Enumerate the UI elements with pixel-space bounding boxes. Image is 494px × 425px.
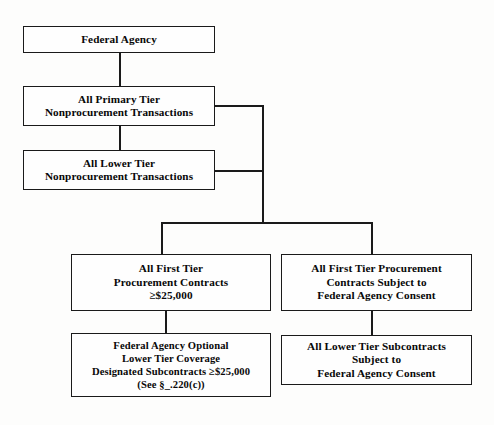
connector-drop-to-first-tier-right xyxy=(371,222,373,254)
connector-lower-stub-right xyxy=(215,170,263,172)
node-label-all-first-tier-procurement-consent: All First Tier Procurement Contracts Sub… xyxy=(307,262,446,302)
connector-right-column-connector xyxy=(371,311,373,335)
node-all-lower-tier-subcontracts-consent: All Lower Tier Subcontracts Subject to F… xyxy=(281,335,472,385)
node-federal-agency: Federal Agency xyxy=(23,26,215,53)
connector-primary-to-lower xyxy=(119,126,121,150)
node-all-first-tier-procurement-consent: All First Tier Procurement Contracts Sub… xyxy=(281,254,472,311)
connector-primary-stub-right xyxy=(215,105,263,107)
node-label-all-first-tier-procurement-contracts: All First Tier Procurement Contracts ≥$2… xyxy=(110,262,232,302)
connector-split-bar-horizontal xyxy=(161,222,372,224)
node-all-first-tier-procurement-contracts: All First Tier Procurement Contracts ≥$2… xyxy=(71,254,271,311)
connector-right-trunk-vertical xyxy=(262,105,264,223)
node-label-federal-agency-optional-lower-tier: Federal Agency Optional Lower Tier Cover… xyxy=(88,339,254,391)
node-all-lower-tier-nonprocurement: All Lower Tier Nonprocurement Transactio… xyxy=(23,150,215,190)
flowchart-canvas: Federal AgencyAll Primary Tier Nonprocur… xyxy=(0,0,494,425)
node-label-all-primary-tier-nonprocurement: All Primary Tier Nonprocurement Transact… xyxy=(41,93,197,120)
connector-agency-to-primary xyxy=(119,53,121,86)
connector-left-column-connector xyxy=(165,311,167,333)
node-label-all-lower-tier-nonprocurement: All Lower Tier Nonprocurement Transactio… xyxy=(41,157,197,184)
node-federal-agency-optional-lower-tier: Federal Agency Optional Lower Tier Cover… xyxy=(71,333,271,397)
node-label-all-lower-tier-subcontracts-consent: All Lower Tier Subcontracts Subject to F… xyxy=(303,340,450,380)
node-all-primary-tier-nonprocurement: All Primary Tier Nonprocurement Transact… xyxy=(23,86,215,126)
node-label-federal-agency: Federal Agency xyxy=(77,33,161,46)
connector-drop-to-first-tier-left xyxy=(161,222,163,254)
